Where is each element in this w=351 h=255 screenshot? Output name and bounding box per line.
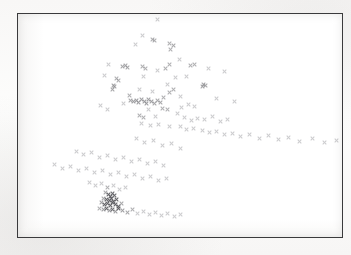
scatter-point (114, 197, 119, 202)
scatter-point (136, 100, 141, 105)
scatter-point (114, 76, 119, 81)
scatter-point (171, 87, 176, 92)
scatter-point (121, 101, 126, 106)
scatter-point (164, 176, 169, 181)
scatter-point (104, 197, 109, 202)
scatter-point (222, 132, 227, 137)
scatter-point (123, 63, 128, 68)
scatter-point (161, 163, 166, 168)
scatter-point (101, 196, 106, 201)
scatter-point (160, 143, 165, 148)
scatter-point (188, 63, 193, 68)
scatter-point (189, 118, 194, 123)
scatter-point (334, 138, 339, 143)
scatter-point (184, 74, 189, 79)
scatter-point (210, 114, 215, 119)
scatter-point (127, 93, 132, 98)
scatter-point (98, 103, 103, 108)
scatter-point (156, 178, 161, 183)
scatter-point (116, 204, 121, 209)
scatter-point (137, 113, 142, 118)
scatter-point (132, 172, 137, 177)
scatter-point (108, 194, 113, 199)
scatter-point (175, 111, 180, 116)
scanned-page (0, 0, 351, 255)
scatter-point (310, 136, 315, 141)
scatter-point (142, 99, 147, 104)
scatter-point (141, 115, 146, 120)
scatter-point (116, 170, 121, 175)
scatter-point (257, 136, 262, 141)
scatter-point (167, 62, 172, 67)
scatter-point (52, 162, 57, 167)
scatter-point (148, 174, 153, 179)
scatter-point (135, 211, 140, 216)
scatter-point (112, 193, 117, 198)
scatter-point (167, 124, 172, 129)
scatter-point (134, 136, 139, 141)
scatter-point (121, 155, 126, 160)
scatter-point (178, 146, 183, 151)
scatter-point (137, 87, 142, 92)
scatter-point (286, 135, 291, 140)
scatter-point (140, 176, 145, 181)
scatter-point (182, 115, 187, 120)
scatter-point (214, 129, 219, 134)
scatter-point (120, 64, 125, 69)
scatter-point (159, 213, 164, 218)
scatter-point (178, 124, 183, 129)
scatter-point (106, 62, 111, 67)
scatter-point (165, 82, 170, 87)
scatter-point (111, 183, 116, 188)
scatter-point (99, 200, 104, 205)
scatter-point (125, 65, 130, 70)
scatter-point (117, 187, 122, 192)
scatter-point (153, 114, 158, 119)
scatter-point (105, 201, 110, 206)
scatter-point (124, 174, 129, 179)
scatter-point (116, 78, 121, 83)
scatter-point (165, 107, 170, 112)
scatter-point (113, 157, 118, 162)
scatter-point (151, 138, 156, 143)
scatter-point (153, 210, 158, 215)
scatter-point (147, 212, 152, 217)
scatter-point (192, 62, 197, 67)
scatter-point (322, 140, 327, 145)
scatter-point (206, 66, 211, 71)
scatter-point (81, 152, 86, 157)
scatter-point (155, 17, 160, 22)
scatter-point (139, 97, 144, 102)
scatter-point (169, 141, 174, 146)
scatter-point (97, 155, 102, 160)
scatter-point (131, 99, 136, 104)
scatter-point (102, 202, 107, 207)
scatter-point (173, 75, 178, 80)
scatter-point (145, 161, 150, 166)
scatter-point (113, 202, 118, 207)
scatter-point (171, 43, 176, 48)
scatter-point (74, 149, 79, 154)
scatter-point (113, 209, 118, 214)
scatter-point (232, 99, 237, 104)
scatter-point (107, 208, 112, 213)
scatter-point (186, 102, 191, 107)
scatter-point (148, 123, 153, 128)
scatter-point (155, 68, 160, 73)
scatter-point (119, 201, 124, 206)
scatter-point (93, 183, 98, 188)
scatter-point (134, 98, 139, 103)
scatter-point (218, 119, 223, 124)
scatter-point (141, 74, 146, 79)
scatter-point (202, 117, 207, 122)
scatter-point (84, 166, 89, 171)
scatter-points-layer (18, 14, 342, 237)
scatter-point (140, 64, 145, 69)
scatter-point (110, 200, 115, 205)
scatter-point (99, 181, 104, 186)
scatter-point (112, 84, 117, 89)
scatter-point (225, 117, 230, 122)
scatter-point (150, 37, 155, 42)
plot-panel (17, 13, 343, 238)
scatter-point (152, 38, 157, 43)
